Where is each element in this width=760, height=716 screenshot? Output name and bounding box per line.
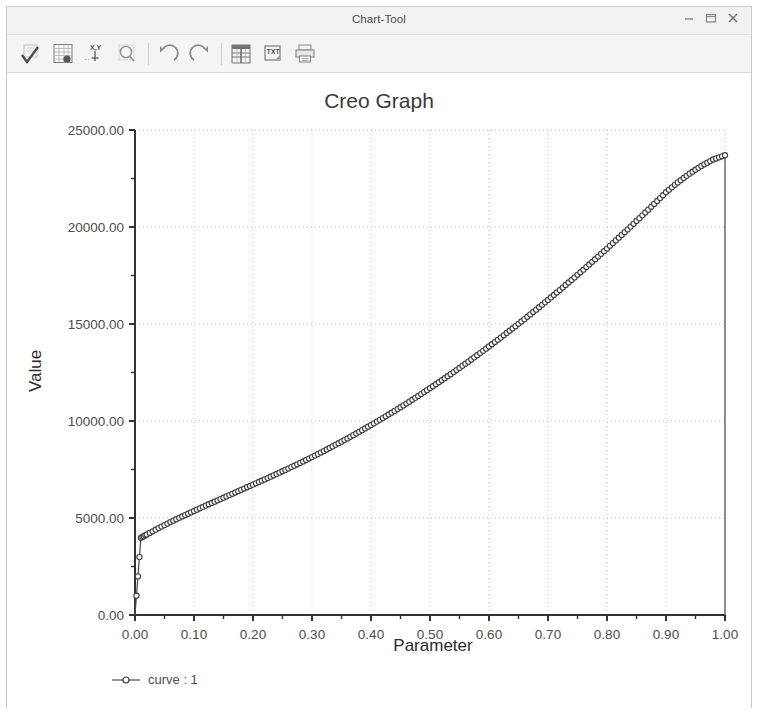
y-axis-title: Value	[26, 350, 45, 392]
x-tick-label: 0.90	[653, 627, 679, 642]
minimize-icon	[683, 12, 695, 24]
series-data-point	[137, 554, 142, 559]
undo-button[interactable]	[153, 39, 183, 69]
close-icon	[727, 12, 739, 24]
data-table-icon	[51, 42, 75, 66]
xy-axes-icon: X,Y	[83, 42, 107, 66]
print-button[interactable]	[290, 39, 320, 69]
y-tick-label: 0.00	[98, 608, 124, 623]
chart-canvas[interactable]: Creo Graph Value Parameter 0.000.100.200…	[7, 73, 751, 709]
maximize-button[interactable]	[705, 12, 721, 28]
gridlines	[135, 130, 725, 615]
data-series[interactable]	[134, 153, 728, 615]
y-tick-label: 20000.00	[68, 220, 124, 235]
series-data-point	[134, 593, 139, 598]
y-tick-label: 5000.00	[75, 511, 124, 526]
accept-checkmark-icon	[19, 42, 43, 66]
chart-plot-svg: Creo Graph Value Parameter 0.000.100.200…	[7, 73, 752, 709]
axis-ticks	[129, 130, 725, 621]
x-tick-label: 0.80	[594, 627, 620, 642]
accept-checkmark-button[interactable]	[16, 39, 46, 69]
toolbar: X,Y	[7, 35, 751, 73]
toolbar-separator-1	[148, 43, 149, 65]
text-export-button[interactable]: TXT	[258, 39, 288, 69]
series-data-point	[722, 153, 727, 158]
x-tick-label: 0.50	[417, 627, 443, 642]
series-data-point	[135, 574, 140, 579]
y-tick-label: 10000.00	[68, 414, 124, 429]
redo-button[interactable]	[185, 39, 215, 69]
minimize-button[interactable]	[683, 12, 699, 28]
chart-legend[interactable]: curve : 1	[112, 672, 198, 687]
x-tick-label: 0.20	[240, 627, 266, 642]
x-tick-label: 0.00	[122, 627, 148, 642]
axis-tick-labels: 0.000.100.200.300.400.500.600.700.800.90…	[68, 123, 738, 642]
zoom-icon	[115, 42, 139, 66]
redo-icon	[188, 42, 212, 66]
x-tick-label: 0.40	[358, 627, 384, 642]
print-icon	[293, 42, 317, 66]
spreadsheet-export-button[interactable]	[226, 39, 256, 69]
x-tick-label: 0.60	[476, 627, 502, 642]
svg-text:X,Y: X,Y	[90, 44, 102, 52]
x-tick-label: 1.00	[712, 627, 738, 642]
data-table-button[interactable]	[48, 39, 78, 69]
zoom-button[interactable]	[112, 39, 142, 69]
chart-tool-window: Chart-Tool	[6, 6, 752, 708]
maximize-icon	[705, 12, 717, 24]
close-button[interactable]	[727, 12, 743, 28]
y-tick-label: 25000.00	[68, 123, 124, 138]
spreadsheet-export-icon	[229, 42, 253, 66]
svg-text:TXT: TXT	[267, 48, 281, 55]
x-tick-label: 0.10	[181, 627, 207, 642]
chart-title: Creo Graph	[324, 89, 434, 112]
y-tick-label: 15000.00	[68, 317, 124, 332]
legend-marker-icon	[123, 677, 129, 683]
title-bar: Chart-Tool	[7, 7, 751, 35]
legend-entry-label: curve : 1	[148, 672, 198, 687]
x-tick-label: 0.70	[535, 627, 561, 642]
window-title: Chart-Tool	[7, 13, 751, 25]
toolbar-separator-2	[221, 43, 222, 65]
undo-icon	[156, 42, 180, 66]
xy-axes-button[interactable]: X,Y	[80, 39, 110, 69]
x-tick-label: 0.30	[299, 627, 325, 642]
text-export-icon: TXT	[261, 42, 285, 66]
